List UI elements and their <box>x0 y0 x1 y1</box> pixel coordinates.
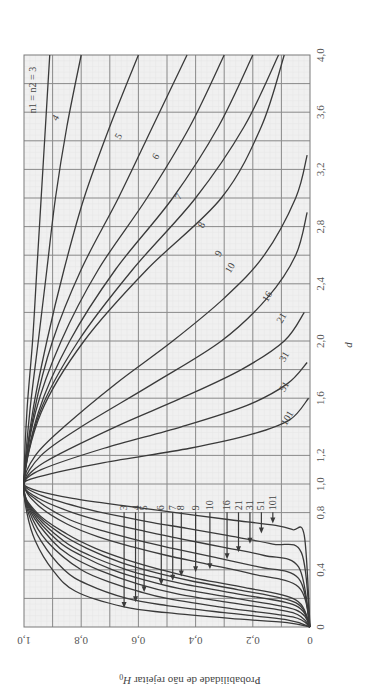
d-tick-label: 4,0 <box>314 48 326 62</box>
d-tick-label: 1,0 <box>314 477 326 491</box>
arrow-label-n5: 5 <box>138 505 149 510</box>
d-axis-ticks: 00,40,81,01,21,62,02,42,83,23,64,0 <box>314 48 326 630</box>
d-tick-label: 2,8 <box>314 219 326 233</box>
probability-tick-label: 1,0 <box>17 635 31 647</box>
probability-axis-label-subscript: 0 <box>119 672 123 681</box>
probability-tick-label: 0,4 <box>188 635 202 647</box>
d-tick-label: 0,8 <box>314 505 326 519</box>
d-tick-label: 2,4 <box>314 276 326 290</box>
d-tick-label: 3,6 <box>314 105 326 119</box>
arrow-label-n101: 101 <box>267 495 278 510</box>
d-tick-label: 1,6 <box>314 391 326 405</box>
probability-axis-ticks: 00,20,40,60,81,0 <box>17 635 313 647</box>
d-tick-label: 1,2 <box>314 449 326 463</box>
d-tick-label: 3,2 <box>314 163 326 177</box>
probability-tick-label: 0,8 <box>74 635 88 647</box>
arrow-label-n16: 16 <box>221 500 232 510</box>
arrow-label-n51: 51 <box>255 500 266 510</box>
probability-tick-label: 0,6 <box>131 635 145 647</box>
d-tick-label: 0 <box>314 624 326 630</box>
arrow-label-n31: 31 <box>244 500 255 510</box>
arrow-label-n10: 10 <box>204 500 215 510</box>
arrow-label-n8: 8 <box>175 505 186 510</box>
major-grid <box>24 55 310 627</box>
probability-tick-label: 0 <box>307 635 313 647</box>
d-axis-label: d <box>342 342 354 348</box>
arrow-label-n9: 9 <box>190 505 201 510</box>
probability-tick-label: 0,2 <box>246 635 260 647</box>
oc-curve-chart: 34567891016213151101 4567891016213151101… <box>0 0 373 697</box>
arrow-label-n6: 6 <box>155 505 166 510</box>
probability-axis-label: Probabilidade de não rejeitar H0 <box>119 672 260 687</box>
d-tick-label: 2,0 <box>314 334 326 348</box>
d-tick-label: 0,4 <box>314 562 326 576</box>
arrow-label-n3: 3 <box>118 505 129 510</box>
arrow-label-n21: 21 <box>233 500 244 510</box>
probability-axis-label-text: Probabilidade de não rejeitar <box>131 675 261 687</box>
legend-n1-n2-label: n1 = n2 = 3 <box>27 67 38 113</box>
